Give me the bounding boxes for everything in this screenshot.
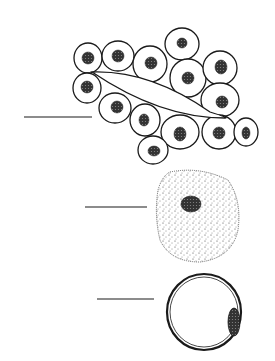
label-lines [24, 117, 154, 299]
stippled-cell [156, 170, 238, 262]
ring-cell [167, 274, 241, 350]
cell-diagram [0, 0, 275, 361]
cell-cluster [73, 28, 258, 164]
ring-cell-nucleus [228, 308, 240, 336]
stippled-cell-nucleus [181, 196, 201, 212]
